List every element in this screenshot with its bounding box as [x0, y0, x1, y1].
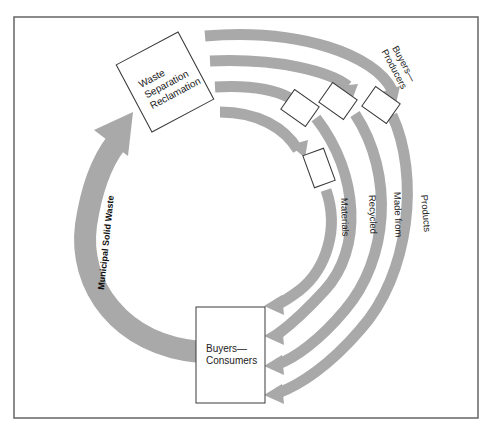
materials-label: Materials: [339, 198, 351, 237]
materials-arrow: [220, 112, 331, 315]
made-from-label: Made from: [392, 192, 405, 238]
buyers-consumers-line-1: Buyers—: [206, 343, 247, 354]
buyers-consumers-box: Buyers— Consumers: [196, 307, 265, 403]
buyers-consumers-line-2: Consumers: [206, 355, 257, 366]
recycled-label: Recycled: [367, 195, 379, 234]
materials-box: [303, 148, 335, 187]
products-label: Products: [419, 194, 433, 233]
recycling-diagram: Waste Separation Reclamation Buyers— Pro…: [0, 0, 494, 434]
